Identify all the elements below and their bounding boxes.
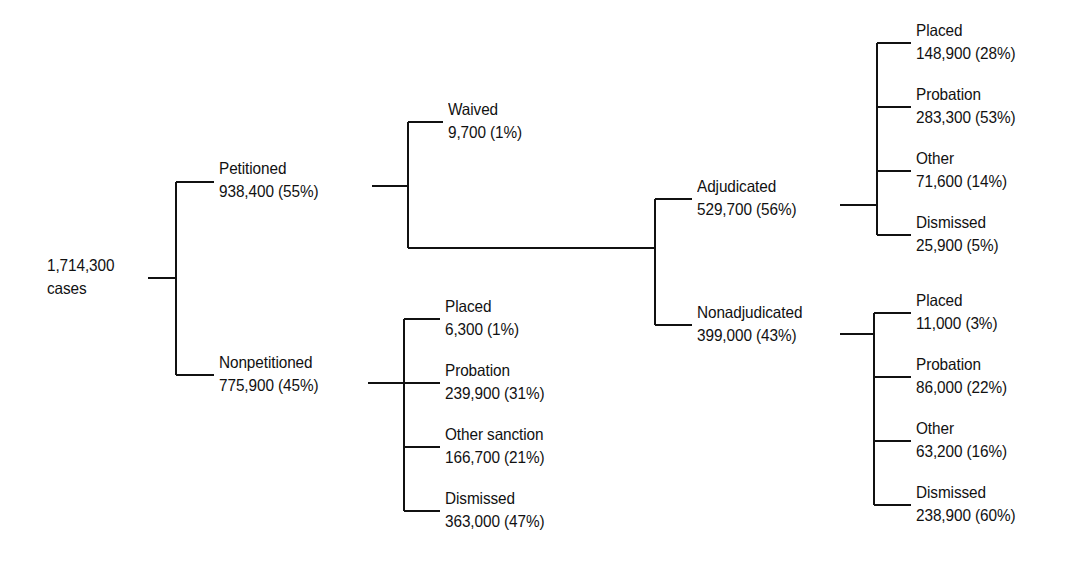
node-adjudicated-dismissed-value: 25,900 (5%) xyxy=(916,234,999,257)
node-nonadjudicated: Nonadjudicated 399,000 (43%) xyxy=(697,301,802,347)
node-adjudicated-placed-value: 148,900 (28%) xyxy=(916,42,1015,65)
node-adjudicated-probation: Probation 283,300 (53%) xyxy=(916,83,1015,129)
node-nonadjudicated-label: Nonadjudicated xyxy=(697,301,802,324)
node-adjudicated-probation-value: 283,300 (53%) xyxy=(916,106,1015,129)
node-nonadjudicated-dismissed-label: Dismissed xyxy=(916,481,1015,504)
node-adjudicated-placed: Placed 148,900 (28%) xyxy=(916,19,1015,65)
node-nonpetitioned-probation-value: 239,900 (31%) xyxy=(445,382,544,405)
node-nonadjudicated-placed-value: 11,000 (3%) xyxy=(916,312,997,335)
node-adjudicated-dismissed: Dismissed 25,900 (5%) xyxy=(916,211,999,257)
node-nonpetitioned-other-sanction: Other sanction 166,700 (21%) xyxy=(445,423,544,469)
node-adjudicated-other: Other 71,600 (14%) xyxy=(916,147,1007,193)
node-root: 1,714,300 cases xyxy=(47,254,114,300)
node-nonpetitioned-placed-label: Placed xyxy=(445,295,519,318)
node-petitioned-value: 938,400 (55%) xyxy=(219,180,318,203)
node-nonpetitioned-other-sanction-value: 166,700 (21%) xyxy=(445,446,544,469)
node-nonpetitioned-dismissed-value: 363,000 (47%) xyxy=(445,510,544,533)
node-nonadjudicated-dismissed: Dismissed 238,900 (60%) xyxy=(916,481,1015,527)
node-nonpetitioned-probation: Probation 239,900 (31%) xyxy=(445,359,544,405)
node-nonpetitioned-other-sanction-label: Other sanction xyxy=(445,423,544,446)
node-nonpetitioned: Nonpetitioned 775,900 (45%) xyxy=(219,351,318,397)
node-nonadjudicated-probation: Probation 86,000 (22%) xyxy=(916,353,1007,399)
node-adjudicated: Adjudicated 529,700 (56%) xyxy=(697,175,796,221)
node-nonadjudicated-placed: Placed 11,000 (3%) xyxy=(916,289,997,335)
node-adjudicated-other-value: 71,600 (14%) xyxy=(916,170,1007,193)
node-nonadjudicated-probation-value: 86,000 (22%) xyxy=(916,376,1007,399)
node-nonpetitioned-probation-label: Probation xyxy=(445,359,544,382)
node-nonadjudicated-placed-label: Placed xyxy=(916,289,997,312)
node-adjudicated-probation-label: Probation xyxy=(916,83,1015,106)
node-adjudicated-value: 529,700 (56%) xyxy=(697,198,796,221)
flowchart-diagram: 1,714,300 cases Petitioned 938,400 (55%)… xyxy=(0,0,1092,567)
node-waived-value: 9,700 (1%) xyxy=(448,121,522,144)
node-petitioned-label: Petitioned xyxy=(219,157,318,180)
node-nonadjudicated-value: 399,000 (43%) xyxy=(697,324,802,347)
node-nonpetitioned-value: 775,900 (45%) xyxy=(219,374,318,397)
node-nonpetitioned-placed: Placed 6,300 (1%) xyxy=(445,295,519,341)
node-nonpetitioned-dismissed-label: Dismissed xyxy=(445,487,544,510)
node-nonadjudicated-other-label: Other xyxy=(916,417,1007,440)
node-waived: Waived 9,700 (1%) xyxy=(448,98,522,144)
node-root-value: cases xyxy=(47,277,114,300)
node-nonadjudicated-other-value: 63,200 (16%) xyxy=(916,440,1007,463)
node-nonadjudicated-probation-label: Probation xyxy=(916,353,1007,376)
node-nonpetitioned-dismissed: Dismissed 363,000 (47%) xyxy=(445,487,544,533)
node-nonadjudicated-other: Other 63,200 (16%) xyxy=(916,417,1007,463)
node-nonadjudicated-dismissed-value: 238,900 (60%) xyxy=(916,504,1015,527)
node-nonpetitioned-placed-value: 6,300 (1%) xyxy=(445,318,519,341)
node-petitioned: Petitioned 938,400 (55%) xyxy=(219,157,318,203)
node-adjudicated-label: Adjudicated xyxy=(697,175,796,198)
node-adjudicated-placed-label: Placed xyxy=(916,19,1015,42)
node-waived-label: Waived xyxy=(448,98,522,121)
node-adjudicated-other-label: Other xyxy=(916,147,1007,170)
node-adjudicated-dismissed-label: Dismissed xyxy=(916,211,999,234)
node-root-label: 1,714,300 xyxy=(47,254,114,277)
node-nonpetitioned-label: Nonpetitioned xyxy=(219,351,318,374)
